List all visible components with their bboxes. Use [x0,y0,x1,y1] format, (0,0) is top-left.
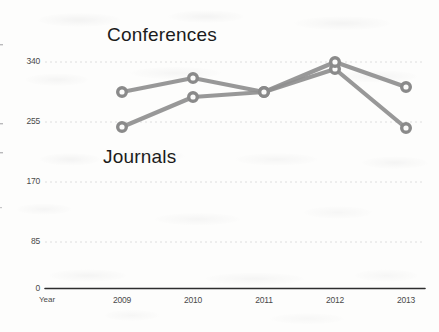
series-conferences [118,58,411,97]
series-conferences-markers [118,58,411,97]
series-label-conferences: Conferences [107,24,217,46]
y-tick-label-0: 0 [16,283,40,293]
x-tick-label-2012: 2012 [315,295,355,305]
y-tick-label-170: 170 [16,176,40,186]
chart-figure: 340 255 170 85 0 Year 2009 2010 2011 201… [0,0,439,332]
y-tick-label-85: 85 [16,236,40,246]
y-tick-label-340: 340 [16,56,40,66]
x-tick-label-2009: 2009 [102,295,142,305]
gridlines [45,62,425,242]
x-tick-label-2010: 2010 [173,295,213,305]
y-tick-label-255: 255 [16,116,40,126]
x-tick-label-2011: 2011 [244,295,284,305]
x-axis-title: Year [39,295,55,304]
x-tick-label-2013: 2013 [386,295,426,305]
line-chart-plot [0,0,439,332]
series-label-journals: Journals [103,146,176,168]
